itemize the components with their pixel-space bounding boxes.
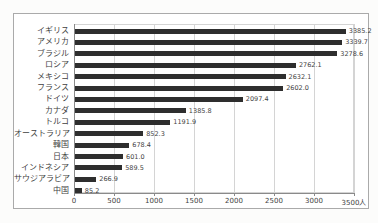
x-axis-line [74,193,355,194]
x-tick-label: 2500 [257,197,291,205]
x-tick-mark [354,193,355,196]
x-tick-label: 2000 [217,197,251,205]
x-tick-mark [274,193,275,196]
x-tick-mark [74,193,75,196]
y-axis-line [74,24,75,193]
x-axis: 0500100015002000250030003500人 [14,14,368,208]
x-tick-mark [314,193,315,196]
bar-chart: イギリス3385.2アメリカ3339.7ブラジル3278.6ロシア2762.1メ… [13,13,369,209]
x-tick-label: 0 [57,197,91,205]
x-tick-label: 3500人 [337,197,371,207]
x-tick-label: 1500 [177,197,211,205]
x-tick-mark [154,193,155,196]
x-tick-label: 1000 [137,197,171,205]
x-tick-mark [114,193,115,196]
screenshot-root: イギリス3385.2アメリカ3339.7ブラジル3278.6ロシア2762.1メ… [0,0,378,223]
x-tick-mark [194,193,195,196]
x-tick-label: 3000 [297,197,331,205]
x-tick-mark [234,193,235,196]
x-tick-label: 500 [97,197,131,205]
